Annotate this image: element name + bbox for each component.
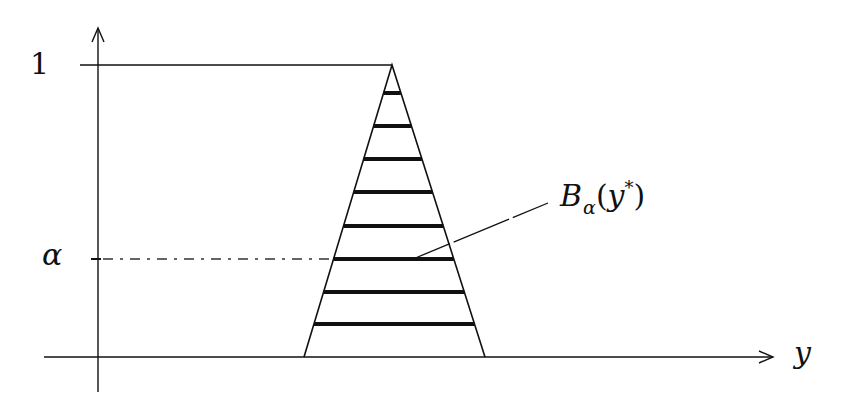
set-symbol: B	[560, 178, 582, 213]
alpha-cut-bars	[314, 93, 475, 324]
axes	[44, 28, 773, 392]
tick-label-alpha: α	[42, 240, 62, 270]
set-argument: y	[608, 178, 625, 213]
triangular-membership-function	[304, 65, 485, 357]
membership-diagram	[0, 0, 845, 405]
horizontal-axis-label: y	[794, 338, 811, 368]
set-subscript: α	[583, 196, 596, 218]
open-paren: (	[596, 178, 608, 213]
argument-superscript: *	[625, 177, 634, 198]
annotation-leader-line	[413, 203, 548, 259]
close-paren: )	[634, 178, 646, 213]
alpha-cut-set-label: Bα(y*)	[560, 181, 645, 211]
tick-label-one: 1	[30, 49, 49, 79]
